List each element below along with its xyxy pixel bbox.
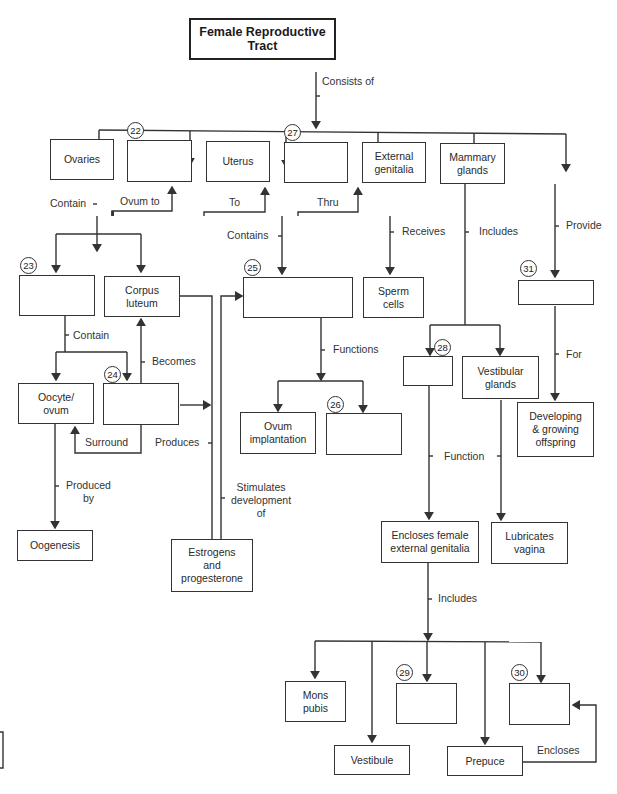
number-30: 30 [511, 664, 528, 681]
label-consists-of: Consists of [322, 75, 374, 88]
label-contain: Contain [50, 197, 86, 210]
node-external-genitalia: External genitalia [362, 142, 426, 183]
node-blank-23[interactable] [19, 275, 95, 316]
number-25: 25 [244, 259, 261, 276]
node-developing-offspring: Developing & growing offspring [517, 402, 594, 457]
label-produced-by: Produced by [66, 479, 111, 505]
title-node: Female Reproductive Tract [189, 18, 336, 60]
node-ovaries: Ovaries [50, 139, 114, 180]
node-blank-28[interactable] [403, 356, 453, 386]
concept-map: Female Reproductive Tract Consists of Ov… [0, 0, 617, 794]
node-blank-30[interactable] [509, 683, 570, 725]
label-to: To [229, 196, 240, 209]
label-receives: Receives [402, 225, 445, 238]
node-oocyte-ovum: Oocyte/ ovum [18, 383, 94, 424]
node-mons-pubis: Mons pubis [285, 681, 346, 722]
node-ovum-implantation: Ovum implantation [240, 412, 316, 454]
label-includes-top: Includes [479, 225, 518, 238]
node-blank-29[interactable] [396, 683, 457, 724]
node-blank-26[interactable] [326, 413, 402, 455]
node-blank-27[interactable] [284, 142, 348, 183]
node-blank-25[interactable] [243, 277, 353, 318]
number-24: 24 [104, 366, 121, 383]
number-31: 31 [520, 260, 537, 277]
label-function: Function [444, 450, 484, 463]
label-encloses: Encloses [537, 744, 580, 757]
node-blank-24[interactable] [103, 383, 179, 425]
label-stimulates-development: Stimulates development of [231, 481, 291, 520]
node-prepuce: Prepuce [447, 746, 523, 776]
node-mammary-glands: Mammary glands [440, 143, 505, 184]
node-corpus-luteum: Corpus luteum [104, 276, 180, 317]
node-oogenesis: Oogenesis [17, 530, 93, 561]
node-encloses-female-genitalia: Encloses female external genitalia [381, 521, 479, 563]
number-28: 28 [434, 339, 451, 356]
label-contain-2: Contain [73, 329, 109, 342]
number-29: 29 [396, 664, 413, 681]
node-blank-31[interactable] [518, 280, 594, 305]
number-23: 23 [20, 257, 37, 274]
number-27: 27 [284, 124, 301, 141]
label-contains: Contains [227, 229, 268, 242]
node-sperm-cells: Sperm cells [363, 277, 424, 318]
number-26: 26 [327, 396, 344, 413]
label-surround: Surround [85, 436, 128, 449]
node-vestibular-glands: Vestibular glands [462, 356, 539, 399]
node-blank-22[interactable] [127, 140, 192, 182]
node-uterus: Uterus [206, 141, 270, 182]
label-thru: Thru [317, 196, 339, 209]
label-functions: Functions [333, 343, 379, 356]
node-lubricates-vagina: Lubricates vagina [491, 522, 568, 564]
label-for: For [566, 348, 582, 361]
number-22: 22 [127, 122, 144, 139]
label-produces: Produces [155, 436, 199, 449]
label-becomes: Becomes [152, 355, 196, 368]
label-includes-bottom: Includes [438, 592, 477, 605]
node-estrogens-progesterone: Estrogens and progesterone [171, 539, 253, 592]
label-provide: Provide [566, 219, 602, 232]
node-vestibule: Vestibule [334, 745, 410, 775]
label-ovum-to: Ovum to [120, 195, 160, 208]
